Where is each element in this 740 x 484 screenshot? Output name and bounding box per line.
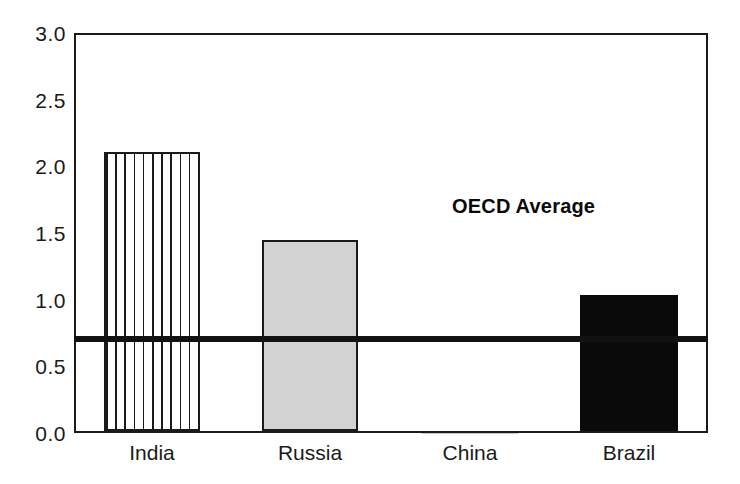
bar-chart: 3.0 2.5 2.0 1.5 1.0 0.5 0.0 OECD Average… xyxy=(0,0,740,484)
y-tick-0-0: 0.0 xyxy=(6,423,66,444)
x-tick-china: China xyxy=(422,441,518,464)
y-tick-2-0: 2.0 xyxy=(6,156,66,177)
x-tick-india: India xyxy=(104,441,200,464)
bar-brazil xyxy=(580,295,678,431)
oecd-average-reference-line xyxy=(74,336,708,342)
y-tick-1-5: 1.5 xyxy=(6,223,66,244)
oecd-average-annotation-label: OECD Average xyxy=(452,195,595,218)
y-axis-tick-labels: 3.0 2.5 2.0 1.5 1.0 0.5 0.0 xyxy=(0,0,66,484)
y-tick-3-0: 3.0 xyxy=(6,23,66,44)
x-tick-russia: Russia xyxy=(262,441,358,464)
bar-china xyxy=(422,272,518,431)
y-tick-1-0: 1.0 xyxy=(6,290,66,311)
bar-india xyxy=(104,152,200,431)
y-tick-0-5: 0.5 xyxy=(6,356,66,377)
y-tick-2-5: 2.5 xyxy=(6,90,66,111)
x-tick-brazil: Brazil xyxy=(580,441,678,464)
